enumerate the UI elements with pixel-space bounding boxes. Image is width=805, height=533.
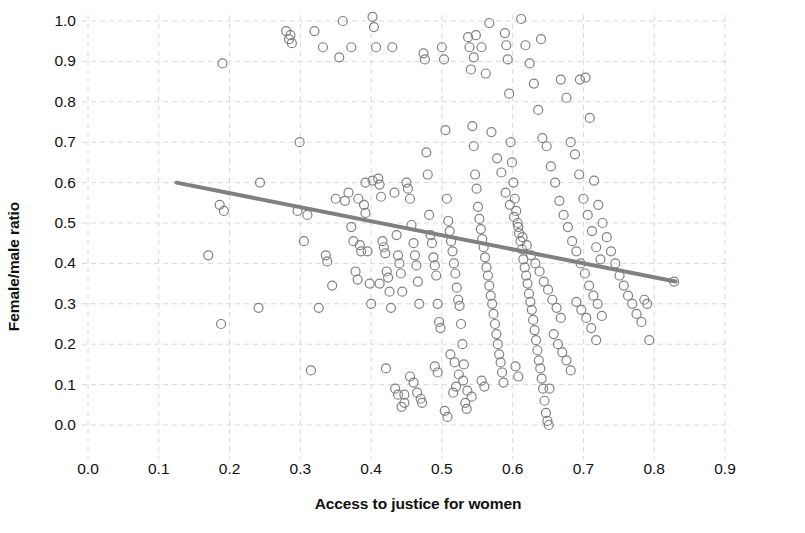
scatter-point xyxy=(468,122,477,131)
scatter-point xyxy=(492,330,501,339)
scatter-point xyxy=(481,69,490,78)
scatter-point xyxy=(555,196,564,205)
scatter-point xyxy=(396,269,405,278)
scatter-point xyxy=(517,14,526,23)
scatter-point xyxy=(495,350,504,359)
scatter-point xyxy=(410,251,419,260)
scatter-point xyxy=(321,251,330,260)
y-tick-label: 0.7 xyxy=(34,133,76,151)
scatter-point xyxy=(385,287,394,296)
scatter-point xyxy=(587,324,596,333)
scatter-point xyxy=(493,154,502,163)
scatter-point xyxy=(577,305,586,314)
scatter-point xyxy=(541,408,550,417)
scatter-point xyxy=(331,194,340,203)
x-tick-label: 0.3 xyxy=(277,460,323,478)
scatter-point xyxy=(254,303,263,312)
scatter-point xyxy=(422,148,431,157)
scatter-point xyxy=(572,247,581,256)
scatter-point xyxy=(540,396,549,405)
scatter-point xyxy=(354,194,363,203)
scatter-point xyxy=(218,59,227,68)
scatter-point xyxy=(534,105,543,114)
scatter-point xyxy=(465,43,474,52)
scatter-plot-figure: Female/male ratio 0.00.10.20.30.40.50.60… xyxy=(0,0,805,533)
scatter-point xyxy=(374,174,383,183)
y-tick-label: 0.1 xyxy=(34,376,76,394)
scatter-point xyxy=(582,313,591,322)
scatter-point xyxy=(594,200,603,209)
scatter-point xyxy=(328,281,337,290)
scatter-point xyxy=(524,289,533,298)
scatter-point xyxy=(537,374,546,383)
scatter-point xyxy=(500,29,509,38)
scatter-point xyxy=(559,210,568,219)
scatter-point xyxy=(507,158,516,167)
scatter-point xyxy=(583,210,592,219)
scatter-point xyxy=(384,273,393,282)
scatter-point xyxy=(368,12,377,21)
scatter-point xyxy=(477,43,486,52)
y-axis-tick-labels: 0.00.10.20.30.40.50.60.70.80.91.0 xyxy=(30,0,76,533)
scatter-point xyxy=(503,55,512,64)
scatter-point xyxy=(314,303,323,312)
scatter-point xyxy=(485,19,494,28)
scatter-point xyxy=(451,269,460,278)
scatter-point xyxy=(310,27,319,36)
scatter-point xyxy=(575,170,584,179)
scatter-point xyxy=(412,261,421,270)
scatter-point xyxy=(590,176,599,185)
scatter-point xyxy=(602,233,611,242)
scatter-point xyxy=(530,326,539,335)
scatter-point xyxy=(536,35,545,44)
scatter-point xyxy=(388,43,397,52)
scatter-point xyxy=(361,208,370,217)
scatter-point xyxy=(552,303,561,312)
y-tick-label: 0.8 xyxy=(34,93,76,111)
scatter-point xyxy=(587,227,596,236)
scatter-point xyxy=(483,271,492,280)
scatter-point xyxy=(377,192,386,201)
scatter-point xyxy=(217,320,226,329)
scatter-point xyxy=(353,275,362,284)
scatter-point xyxy=(360,200,369,209)
scatter-point xyxy=(563,223,572,232)
scatter-point xyxy=(365,279,374,288)
scatter-point xyxy=(462,404,471,413)
scatter-point xyxy=(473,202,482,211)
scatter-point xyxy=(597,311,606,320)
y-tick-label: 0.4 xyxy=(34,254,76,272)
scatter-point xyxy=(381,249,390,258)
scatter-point xyxy=(619,281,628,290)
x-tick-label: 0.1 xyxy=(136,460,182,478)
scatter-point xyxy=(544,285,553,294)
scatter-point xyxy=(514,372,523,381)
scatter-point xyxy=(535,267,544,276)
scatter-point xyxy=(529,79,538,88)
scatter-point xyxy=(489,309,498,318)
scatter-point xyxy=(581,73,590,82)
scatter-point xyxy=(556,313,565,322)
scatter-point xyxy=(527,305,536,314)
scatter-point xyxy=(318,43,327,52)
scatter-point xyxy=(419,49,428,58)
plot-canvas xyxy=(88,21,725,425)
y-tick-label: 0.9 xyxy=(34,52,76,70)
scatter-point xyxy=(382,267,391,276)
x-tick-label: 0.8 xyxy=(631,460,677,478)
scatter-point xyxy=(585,113,594,122)
scatter-point xyxy=(441,126,450,135)
y-tick-label: 0.2 xyxy=(34,335,76,353)
scatter-point xyxy=(485,281,494,290)
scatter-point xyxy=(545,384,554,393)
x-axis-title: Access to justice for women xyxy=(88,495,748,513)
scatter-point xyxy=(425,210,434,219)
scatter-point xyxy=(562,93,571,102)
scatter-point xyxy=(546,162,555,171)
y-axis-title: Female/male ratio xyxy=(0,0,28,533)
scatter-point xyxy=(572,297,581,306)
scatter-point xyxy=(372,43,381,52)
scatter-point xyxy=(386,303,395,312)
scatter-point xyxy=(481,253,490,262)
y-tick-label: 0.3 xyxy=(34,295,76,313)
